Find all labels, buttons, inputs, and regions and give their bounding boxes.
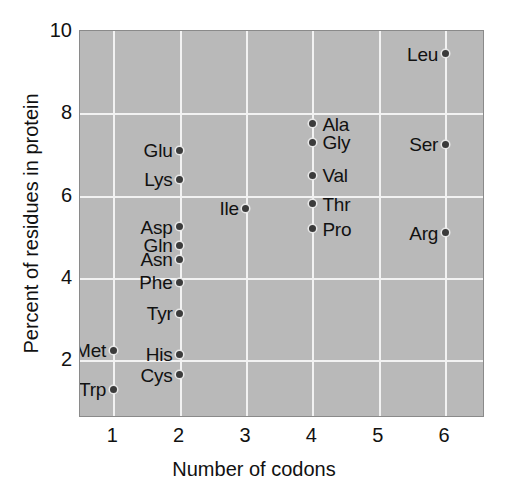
data-point-label: Thr	[322, 194, 350, 213]
gridline-horizontal	[80, 196, 483, 198]
data-point-label: Leu	[407, 44, 438, 63]
data-point	[442, 141, 449, 148]
data-point	[176, 371, 183, 378]
data-point-label: His	[146, 345, 173, 364]
data-point-label: Met	[79, 341, 106, 360]
data-point-label: Ile	[220, 199, 239, 218]
x-tick-label: 6	[439, 424, 450, 447]
data-point	[309, 139, 316, 146]
data-point-label: Cys	[140, 365, 172, 384]
data-point-label: Val	[322, 166, 347, 185]
x-tick-label: 4	[306, 424, 317, 447]
x-tick-label: 3	[239, 424, 250, 447]
data-point	[176, 351, 183, 358]
data-point-label: Arg	[409, 223, 438, 242]
data-point	[176, 147, 183, 154]
gridline-horizontal	[80, 360, 483, 362]
data-point	[176, 256, 183, 263]
scatter-plot-figure: LeuAlaGlySerGluValLysIleThrProArgAspGlnA…	[0, 0, 508, 495]
data-point-label: Ser	[409, 135, 438, 154]
data-point-label: Tyr	[147, 304, 173, 323]
data-point-label: Asn	[140, 250, 172, 269]
data-point	[110, 386, 117, 393]
data-point-label: Asp	[140, 217, 172, 236]
gridline-vertical	[445, 31, 447, 416]
gridline-vertical	[113, 31, 115, 416]
data-point-label: Gly	[322, 133, 350, 152]
data-point	[176, 176, 183, 183]
data-point	[309, 120, 316, 127]
data-point-label: Pro	[322, 219, 351, 238]
data-point	[309, 225, 316, 232]
data-point	[442, 229, 449, 236]
data-point	[309, 200, 316, 207]
x-axis-title: Number of codons	[0, 458, 508, 481]
data-point-label: Glu	[144, 141, 173, 160]
data-point	[442, 50, 449, 57]
data-point	[176, 279, 183, 286]
data-point	[176, 242, 183, 249]
data-point	[110, 347, 117, 354]
x-tick-label: 1	[107, 424, 118, 447]
data-point	[176, 310, 183, 317]
plot-area: LeuAlaGlySerGluValLysIleThrProArgAspGlnA…	[79, 30, 484, 417]
data-point	[242, 205, 249, 212]
data-point-label: Phe	[139, 273, 172, 292]
data-point-label: Lys	[144, 170, 172, 189]
data-point-label: Trp	[79, 380, 106, 399]
x-tick-label: 2	[173, 424, 184, 447]
data-point	[176, 223, 183, 230]
y-axis-title: Percent of residues in protein	[20, 24, 43, 424]
data-point-label: Ala	[322, 114, 349, 133]
gridline-horizontal	[80, 113, 483, 115]
data-point	[309, 172, 316, 179]
gridline-vertical	[246, 31, 248, 416]
gridline-vertical	[379, 31, 381, 416]
gridline-vertical	[312, 31, 314, 416]
x-tick-label: 5	[372, 424, 383, 447]
